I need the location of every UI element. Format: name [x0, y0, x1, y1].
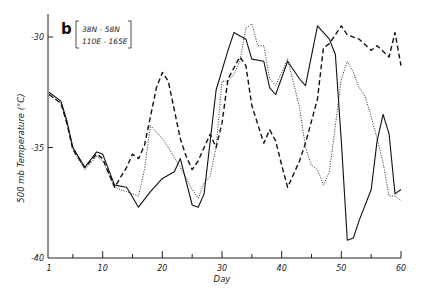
- right-bracket: [128, 21, 131, 48]
- x-ticks: 1102030405060: [46, 251, 406, 273]
- y-ticks: -30-35-40: [31, 33, 53, 263]
- panel-letter: b: [61, 20, 72, 38]
- plot-area: -30-35-40 1102030405060: [31, 14, 406, 273]
- y-tick-label: -30: [31, 33, 44, 42]
- line-chart: -30-35-40 1102030405060 Day 500 mb Tempe…: [0, 0, 422, 299]
- series-lines: [49, 24, 401, 241]
- series-dotted-line: [49, 24, 401, 201]
- x-axis-title: Day: [214, 274, 232, 284]
- y-tick-label: -35: [31, 144, 44, 153]
- x-tick-label: 30: [217, 264, 227, 273]
- series-solid-line: [49, 26, 401, 240]
- x-tick-label: 50: [336, 264, 346, 273]
- longitude-range: 110E - 165E: [82, 37, 128, 46]
- x-tick-label: 10: [98, 264, 108, 273]
- y-axis-title: 500 mb Temperature (°C): [16, 93, 26, 202]
- x-tick-label: 20: [157, 264, 167, 273]
- panel-annotation: b 38N - 58N 110E - 165E: [61, 20, 131, 48]
- y-tick-label: -40: [31, 254, 44, 263]
- left-bracket: [76, 21, 79, 48]
- series-dashed-line: [49, 26, 401, 187]
- x-tick-label: 40: [277, 264, 287, 273]
- x-tick-label: 60: [396, 264, 406, 273]
- latitude-range: 38N - 58N: [82, 25, 120, 34]
- x-tick-label: 1: [46, 264, 51, 273]
